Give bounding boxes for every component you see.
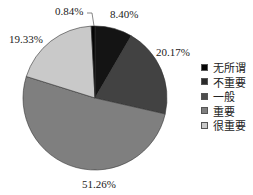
label-wusuowei: 0.84% xyxy=(55,5,83,17)
legend-item: 无所谓 xyxy=(201,60,246,75)
legend-swatch xyxy=(201,93,208,100)
legend-swatch xyxy=(201,78,208,85)
label-henzhongyao: 19.33% xyxy=(9,33,43,45)
label-zhongyao: 51.26% xyxy=(82,178,116,190)
legend-item: 一般 xyxy=(201,89,246,104)
legend-item: 很重要 xyxy=(201,118,246,133)
legend-swatch xyxy=(201,122,208,129)
legend-item: 重要 xyxy=(201,104,246,119)
leader-line xyxy=(87,13,94,26)
legend-item: 不重要 xyxy=(201,75,246,90)
legend-swatch xyxy=(201,107,208,114)
legend: 无所谓不重要一般重要很重要 xyxy=(201,60,246,133)
legend-swatch xyxy=(201,64,208,71)
label-buzhongyao: 8.40% xyxy=(110,8,138,20)
legend-label: 很重要 xyxy=(213,117,246,133)
label-yiban: 20.17% xyxy=(156,46,190,58)
